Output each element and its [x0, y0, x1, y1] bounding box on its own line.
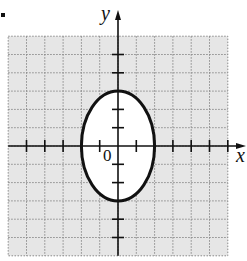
- y-axis-arrow-icon: [115, 10, 121, 20]
- y-axis-label: y: [101, 2, 110, 25]
- coordinate-plane: [0, 0, 247, 261]
- x-axis-label: x: [236, 144, 245, 167]
- origin-label: 0: [103, 146, 112, 166]
